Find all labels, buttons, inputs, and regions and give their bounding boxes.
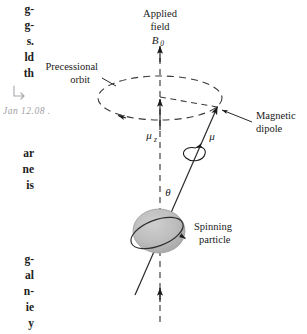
spinning-particle-label-line1: Spinning (194, 221, 233, 232)
precessional-orbit-label-line1: Precessional (46, 61, 99, 72)
orbit-radius-dashed-line (160, 97, 217, 107)
mu-z-symbol-label: μ (145, 129, 152, 141)
figure-page: g- g- s. ld th ar ne is g- al n- ie y Ja… (0, 0, 307, 334)
precessional-orbit-leader-line (102, 78, 116, 86)
theta-symbol-label: θ (165, 186, 171, 198)
applied-field-label-line1: Applied (143, 8, 178, 19)
mu-symbol-label: μ (208, 130, 215, 142)
applied-field-label-line2: field (150, 21, 170, 32)
mu-z-subscript-label: z (153, 135, 157, 144)
applied-field-subscript: 0 (160, 39, 164, 48)
spinning-particle-label-line2: particle (199, 234, 231, 245)
applied-field-symbol: B (152, 34, 159, 46)
magnetic-dipole-label-line1: Magnetic (256, 110, 296, 121)
precession-direction-arrow-icon (118, 116, 126, 119)
magnetic-dipole-leader-line (222, 110, 252, 122)
precession-diagram: Applied field B 0 Precessional orbit Mag… (0, 0, 307, 334)
precessional-orbit-label-line2: orbit (70, 74, 90, 85)
magnetic-dipole-label-line2: dipole (256, 123, 283, 134)
